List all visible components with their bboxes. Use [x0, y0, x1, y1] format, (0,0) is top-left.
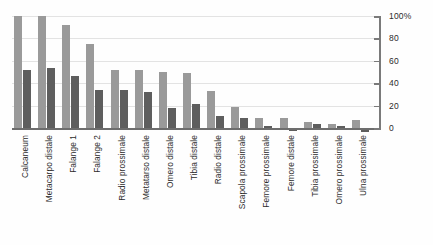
y-tick-80: [374, 38, 380, 40]
x-axis-tick-label: Scapola prossimale: [237, 61, 247, 135]
x-axis-tick-label: Tibia distale: [189, 90, 199, 135]
x-axis-tick-label-text: Ulna prossimale: [358, 135, 368, 196]
x-label-cell: Femore distale: [278, 133, 302, 241]
x-axis-tick-label-text: Falange 1: [68, 135, 78, 173]
x-axis-tick-label-text: Radio distale: [213, 135, 223, 184]
x-axis-tick-label-text: Falange 2: [92, 135, 102, 173]
x-label-cell: Tibia distale: [181, 133, 205, 241]
x-axis-tick-label-text: Radio prossimale: [117, 135, 127, 201]
x-label-cell: Metacarpo distale: [36, 133, 60, 241]
x-label-cell: Radio distale: [205, 133, 229, 241]
x-axis-tick-label-text: Omero distale: [165, 135, 175, 188]
y-axis-label-60: 60: [389, 56, 399, 66]
y-axis: 100% 80 60 40 20 0: [379, 16, 381, 130]
y-axis-label-100: 100%: [389, 11, 412, 21]
x-axis-tick-label: Tibia prossimale: [310, 73, 320, 135]
x-axis-tick-label-text: Metatarso distale: [141, 135, 151, 200]
x-label-cell: Calcaneum: [12, 133, 36, 241]
x-label-cell: Falange 1: [60, 133, 84, 241]
x-label-cell: Omero prossimale: [326, 133, 350, 241]
x-axis-tick-label: Falange 2: [92, 97, 102, 135]
x-axis-tick-label: Metatarso distale: [141, 70, 151, 135]
bar-chart: 100% 80 60 40 20 0 CalcaneumMetacarpo di…: [0, 0, 433, 245]
x-axis-tick-label: Femore prossimale: [261, 62, 271, 135]
y-axis-label-20: 20: [389, 101, 399, 111]
y-axis-label-80: 80: [389, 33, 399, 43]
x-label-cell: Falange 2: [84, 133, 108, 241]
x-axis-tick-label: Metacarpo distale: [44, 68, 54, 135]
x-axis-tick-label: Calcaneum: [20, 92, 30, 135]
x-axis-tick-label: Radio prossimale: [117, 69, 127, 135]
y-tick-40: [374, 83, 380, 85]
x-label-cell: Omero distale: [157, 133, 181, 241]
y-tick-20: [374, 106, 380, 108]
x-axis-tick-label-text: Metacarpo distale: [44, 135, 54, 202]
y-axis-label-0: 0: [389, 123, 394, 133]
x-axis-tick-label-text: Calcaneum: [20, 135, 30, 178]
x-axis-tick-label: Falange 1: [68, 97, 78, 135]
y-tick-60: [374, 61, 380, 63]
x-label-cell: Ulna prossimale: [350, 133, 374, 241]
x-axis-tick-label: Omero distale: [165, 82, 175, 135]
x-axis-tick-label-text: Scapola prossimale: [237, 135, 247, 209]
x-axis-tick-label-text: Tibia prossimale: [310, 135, 320, 197]
x-axis-tick-label-text: Omero prossimale: [334, 135, 344, 204]
x-label-cell: Scapola prossimale: [229, 133, 253, 241]
x-axis-tick-label-text: Femore prossimale: [261, 135, 271, 208]
x-axis-tick-label: Femore distale: [286, 79, 296, 135]
y-axis-label-40: 40: [389, 78, 399, 88]
x-axis-tick-label: Ulna prossimale: [358, 74, 368, 135]
y-tick-0: [374, 128, 380, 130]
x-label-cell: Metatarso distale: [133, 133, 157, 241]
x-axis-tick-label: Omero prossimale: [334, 66, 344, 135]
y-tick-100: [374, 16, 380, 18]
x-label-cell: Femore prossimale: [253, 133, 277, 241]
x-label-cell: Radio prossimale: [109, 133, 133, 241]
x-axis-tick-label: Radio distale: [213, 86, 223, 135]
x-axis-labels: CalcaneumMetacarpo distaleFalange 1Falan…: [12, 133, 374, 241]
x-label-cell: Tibia prossimale: [302, 133, 326, 241]
x-axis-tick-label-text: Tibia distale: [189, 135, 199, 180]
x-axis-tick-label-text: Femore distale: [286, 135, 296, 191]
